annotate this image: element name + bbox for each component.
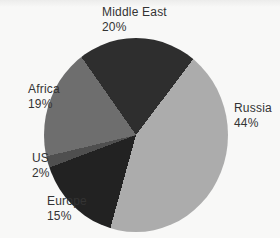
slice-value-europe: 15% (47, 209, 87, 224)
slice-label-africa: Africa 19% (28, 82, 60, 112)
slice-name-middle-east: Middle East (102, 5, 167, 20)
slice-value-middle-east: 20% (102, 20, 167, 35)
pie-chart-figure: Middle East 20% Russia 44% Africa 19% US… (0, 0, 280, 238)
slice-value-us: 2% (32, 166, 50, 181)
slice-label-europe: Europe 15% (47, 194, 87, 224)
slice-name-africa: Africa (28, 82, 60, 97)
slice-label-middle-east: Middle East 20% (102, 5, 167, 35)
slice-value-africa: 19% (28, 97, 60, 112)
slice-value-russia: 44% (234, 116, 272, 131)
slice-label-us: US 2% (32, 151, 50, 181)
slice-name-russia: Russia (234, 101, 272, 116)
slice-name-us: US (32, 151, 50, 166)
slice-name-europe: Europe (47, 194, 87, 209)
slice-label-russia: Russia 44% (234, 101, 272, 131)
